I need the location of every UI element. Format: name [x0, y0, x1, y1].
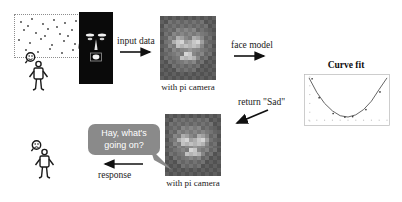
point-cloud-dots — [15, 15, 87, 57]
black-face-capture-panel — [79, 12, 113, 84]
arrow-label-return-sad: return "Sad" — [238, 97, 285, 107]
pixel-face-top-caption: with pi camera — [148, 82, 228, 92]
arrow-label-face-model: face model — [231, 40, 273, 50]
pixelated-face-grid-top — [160, 16, 216, 80]
captured-face-features — [79, 12, 113, 84]
diagram-canvas: with pi camera with pi camera input data… — [0, 0, 402, 202]
curve-fit-chart: Curve fit — [300, 60, 392, 128]
stick-figure-person-top — [24, 52, 54, 92]
speech-bubble-tail — [150, 146, 178, 172]
chart-title: Curve fit — [300, 60, 392, 70]
chart-plot-area — [304, 74, 390, 126]
stick-figure-person-bottom — [30, 140, 60, 180]
arrow-label-response: response — [98, 170, 131, 180]
pixel-face-bottom-caption: with pi camera — [153, 178, 233, 188]
arrow-label-input-data: input data — [117, 36, 155, 46]
